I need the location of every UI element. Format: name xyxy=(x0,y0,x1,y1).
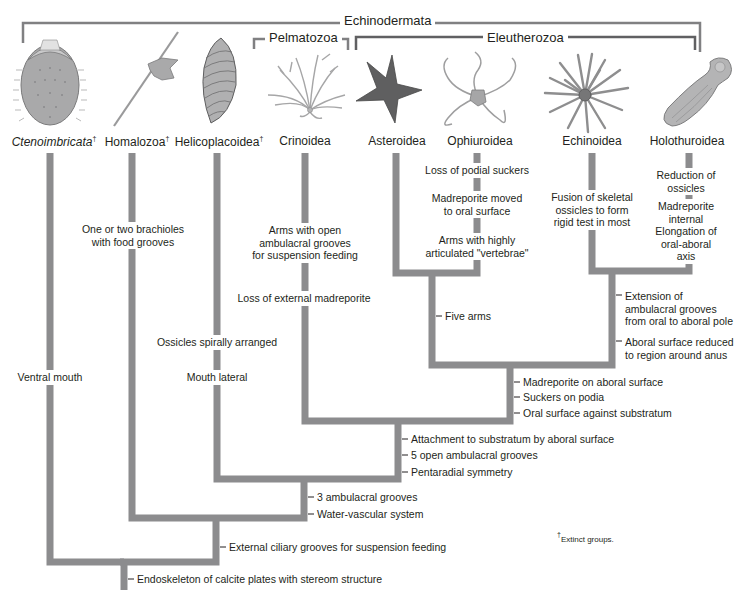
crinoid-illustration xyxy=(268,54,345,118)
clade-label-eleutherozoa: Eleutherozoa xyxy=(483,30,568,45)
character-ossicles-spiral: Ossicles spirally arranged xyxy=(157,335,277,350)
character-aboral-surface-reduced: Aboral surface reduced to region around … xyxy=(625,336,734,361)
taxon-name: Ctenoimbricata xyxy=(12,135,93,149)
character-ciliary-grooves: External ciliary grooves for suspension … xyxy=(229,541,446,554)
taxon-label-homalozoa: Homalozoa† xyxy=(105,132,170,149)
echinoderm-cladogram: Echinodermata Pelmatozoa Eleutherozoa Ct… xyxy=(0,0,752,602)
taxon-label-asteroidea: Asteroidea xyxy=(368,134,425,148)
sea-urchin-illustration xyxy=(545,54,628,132)
taxon-name: Holothuroidea xyxy=(650,134,725,148)
character-ambulacral-extension: Extension of ambulacral grooves from ora… xyxy=(625,290,733,328)
branch-helicoplacoidea xyxy=(217,153,300,479)
taxon-name: Asteroidea xyxy=(368,134,425,148)
character-ventral-mouth: Ventral mouth xyxy=(18,370,83,385)
character-suckers-on-podia: Suckers on podia xyxy=(523,391,604,404)
branch-crinoidea xyxy=(305,153,405,421)
homalozoa-illustration xyxy=(114,32,178,126)
sea-star-illustration xyxy=(356,55,422,123)
character-three-grooves: 3 ambulacral grooves xyxy=(317,491,417,504)
taxon-label-echinoidea: Echinoidea xyxy=(562,134,621,148)
brittle-star-illustration xyxy=(444,52,516,125)
character-mouth-lateral: Mouth lateral xyxy=(187,370,248,385)
character-reduced-ossicles: Reduction of ossicles xyxy=(657,168,716,195)
extinct-dagger: † xyxy=(259,135,263,142)
character-pentaradial-symmetry: Pentaradial symmetry xyxy=(411,466,513,479)
character-five-open-grooves: 5 open ambulacral grooves xyxy=(411,449,538,462)
character-oral-aboral-elongation: Elongation of oral-aboral axis xyxy=(653,224,719,264)
branch-ctenoimbricata xyxy=(50,153,124,562)
ctenoimbricata-illustration xyxy=(13,40,87,125)
character-oral-surface-substratum: Oral surface against substratum xyxy=(523,407,672,420)
character-brachioles: One or two brachioles with food grooves xyxy=(82,222,184,249)
character-aboral-attachment: Attachment to substratum by aboral surfa… xyxy=(411,433,614,446)
helicoplacoid-illustration xyxy=(203,38,236,123)
taxon-label-holothuroidea: Holothuroidea xyxy=(650,134,725,148)
character-loss-external-madreporite: Loss of external madreporite xyxy=(237,291,370,306)
extinct-dagger: † xyxy=(165,135,169,142)
character-madreporite-oral: Madreporite moved to oral surface xyxy=(432,191,522,218)
taxon-name: Ophiuroidea xyxy=(447,134,512,148)
taxon-label-crinoidea: Crinoidea xyxy=(279,134,330,148)
clade-label-echinodermata: Echinodermata xyxy=(340,13,435,28)
character-madreporite-internal: Madreporite internal xyxy=(653,199,719,226)
character-water-vascular-system: Water-vascular system xyxy=(317,508,423,521)
taxon-name: Helicoplacoidea xyxy=(175,135,260,149)
taxon-label-ctenoimbricata: Ctenoimbricata† xyxy=(12,132,97,149)
character-loss-podial-suckers: Loss of podial suckers xyxy=(425,163,529,178)
clade-label-pelmatozoa: Pelmatozoa xyxy=(265,30,342,45)
extinct-dagger: † xyxy=(92,135,96,142)
footnote-text: Extinct groups. xyxy=(561,535,614,544)
character-madreporite-aboral: Madreporite on aboral surface xyxy=(523,376,663,389)
taxon-label-helicoplacoidea: Helicoplacoidea† xyxy=(175,132,264,149)
character-rigid-test: Fusion of skeletal ossicles to form rigi… xyxy=(551,190,633,230)
sea-cucumber-illustration xyxy=(664,58,732,126)
character-calcite-endoskeleton: Endoskeleton of calcite plates with ster… xyxy=(137,573,382,586)
taxon-name: Homalozoa xyxy=(105,135,166,149)
taxon-name: Echinoidea xyxy=(562,134,621,148)
character-arms-vertebrae: Arms with highly articulated "vertebrae" xyxy=(425,233,528,260)
taxon-name: Crinoidea xyxy=(279,134,330,148)
footnote-extinct: †Extinct groups. xyxy=(557,531,614,544)
taxon-label-ophiuroidea: Ophiuroidea xyxy=(447,134,512,148)
character-five-arms: Five arms xyxy=(445,310,491,323)
character-open-ambulacral-arms: Arms with open ambulacral grooves for su… xyxy=(252,223,358,263)
